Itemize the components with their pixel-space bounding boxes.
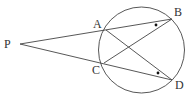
angle-mark-b bbox=[155, 24, 158, 27]
label-d: D bbox=[175, 78, 184, 92]
label-a: A bbox=[93, 17, 102, 31]
chord-cb bbox=[104, 19, 172, 63]
label-c: C bbox=[92, 63, 100, 77]
label-p: P bbox=[4, 37, 11, 51]
label-b: B bbox=[174, 5, 182, 19]
angle-mark-d bbox=[157, 72, 160, 75]
geometry-diagram: P A B C D bbox=[0, 0, 189, 101]
